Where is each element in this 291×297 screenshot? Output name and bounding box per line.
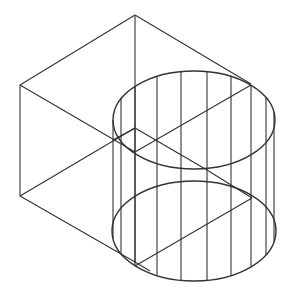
box-wireframe (20, 15, 252, 271)
box-edge-lower-right (207, 170, 252, 198)
box-edge-left-diagonal (20, 85, 135, 152)
box-edge-bottom-diagonal (135, 198, 252, 266)
cylinder-wireframe (112, 71, 276, 281)
box-edge-inner-right (135, 128, 207, 170)
cylinder-vertical-lines (113, 72, 274, 281)
box-edge-mid-right (135, 85, 251, 152)
box-cylinder-wireframe (0, 0, 291, 297)
wireframe-drawing (0, 0, 291, 297)
box-edge-bottom-left (20, 196, 135, 262)
box-edge-top-right (135, 15, 251, 84)
box-edge-top-left (20, 15, 135, 85)
